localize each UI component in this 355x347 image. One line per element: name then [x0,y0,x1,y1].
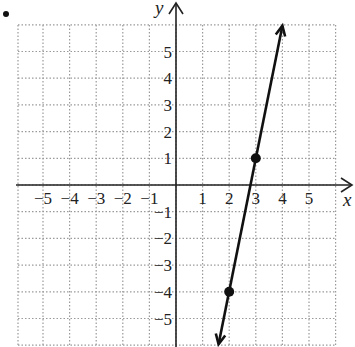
data-point [251,153,261,163]
y-tick-label: −4 [154,283,173,302]
x-tick-label: −3 [87,189,105,208]
coordinate-plane: xy−5−4−3−2−11234554321−1−2−3−4−5 [0,0,355,347]
y-tick-label: 5 [164,43,173,62]
x-tick-label: 2 [225,189,234,208]
tick-labels: xy−5−4−3−2−11234554321−1−2−3−4−5 [34,0,352,329]
x-tick-label: 4 [278,189,287,208]
x-tick-label: 1 [198,189,207,208]
x-tick-label: −4 [61,189,80,208]
y-axis-label: y [153,0,164,18]
axes [16,3,352,347]
x-tick-label: −2 [114,189,132,208]
x-tick-label: 5 [305,189,314,208]
y-tick-label: −1 [154,203,172,222]
data-point [224,287,234,297]
y-tick-label: −2 [154,229,172,248]
x-tick-label: −5 [34,189,52,208]
y-tick-label: 4 [164,69,173,88]
y-tick-label: −5 [154,310,172,329]
y-tick-label: 1 [164,149,173,168]
y-tick-label: 3 [164,96,173,115]
y-tick-label: −3 [154,256,172,275]
x-axis-label: x [342,189,352,210]
x-tick-label: 3 [252,189,261,208]
y-tick-label: 2 [164,123,173,142]
